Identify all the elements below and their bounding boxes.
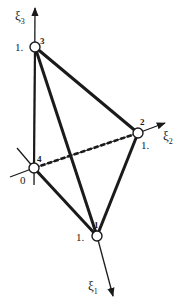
node-2-label: 2 xyxy=(140,117,145,127)
xi1-label: ξ1 xyxy=(88,278,98,296)
node-2-coord: 1. xyxy=(141,139,150,151)
xi2-label: ξ2 xyxy=(163,128,173,146)
edge-3-4 xyxy=(34,47,35,168)
node-3-coord: 1. xyxy=(15,41,24,53)
edge-4-1 xyxy=(34,168,97,236)
node-4-coord: 0 xyxy=(20,174,26,186)
tetrahedron-diagram: 1 2 3 4 1. 1. 1. 0 ξ3 ξ2 ξ1 xyxy=(0,0,185,304)
node-4 xyxy=(29,163,39,173)
node-2 xyxy=(133,128,143,138)
edge-2-1 xyxy=(97,133,138,236)
node-1-coord: 1. xyxy=(76,231,85,243)
node-1-label: 1 xyxy=(94,220,99,230)
xi3-label: ξ3 xyxy=(15,8,25,26)
node-3 xyxy=(30,42,40,52)
node-3-label: 3 xyxy=(40,36,45,46)
edge-3-1 xyxy=(35,47,97,236)
node-4-label: 4 xyxy=(37,154,42,164)
xi1-axis xyxy=(97,236,113,296)
node-1 xyxy=(92,231,102,241)
